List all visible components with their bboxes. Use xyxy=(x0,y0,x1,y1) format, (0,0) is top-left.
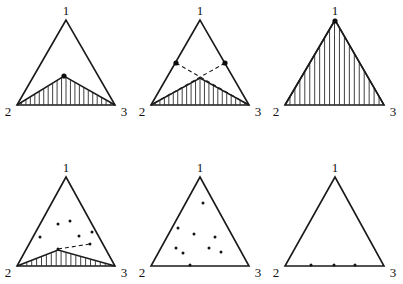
panel-5: 123 xyxy=(139,160,262,280)
data-point xyxy=(222,60,227,65)
data-point xyxy=(89,243,92,246)
data-point xyxy=(220,251,223,254)
panel-2: 123 xyxy=(139,3,262,119)
data-point xyxy=(332,18,337,23)
vertex-label-1: 1 xyxy=(332,160,339,175)
data-point xyxy=(214,236,217,239)
vertex-label-1: 1 xyxy=(197,3,204,18)
hatched-region xyxy=(17,250,115,266)
vertex-label-3: 3 xyxy=(121,104,128,119)
vertex-label-1: 1 xyxy=(332,3,339,18)
vertex-label-2: 2 xyxy=(273,104,280,119)
vertex-label-2: 2 xyxy=(5,104,12,119)
data-point xyxy=(61,73,66,78)
ternary-diagram-figure: 123123123123123123 xyxy=(0,0,403,284)
vertex-label-2: 2 xyxy=(139,104,146,119)
data-point xyxy=(69,220,72,223)
data-point xyxy=(177,227,180,230)
hatched-region xyxy=(285,20,384,105)
data-point xyxy=(310,264,313,267)
data-point xyxy=(78,235,81,238)
dashed-construction-line xyxy=(151,63,225,105)
data-point xyxy=(57,248,60,251)
data-point xyxy=(182,252,185,255)
data-point xyxy=(354,264,357,267)
data-point xyxy=(333,264,336,267)
data-point xyxy=(91,231,94,234)
dashed-construction-line xyxy=(58,244,90,249)
data-point xyxy=(173,60,178,65)
panel-6: 123 xyxy=(273,160,397,280)
data-point xyxy=(175,247,178,250)
vertex-label-3: 3 xyxy=(390,265,397,280)
vertex-label-3: 3 xyxy=(255,265,262,280)
panel-4: 123 xyxy=(5,160,128,280)
data-point xyxy=(208,247,211,250)
data-point xyxy=(57,223,60,226)
figure-canvas: 123123123123123123 xyxy=(0,0,403,284)
data-point xyxy=(193,233,196,236)
vertex-label-3: 3 xyxy=(390,104,397,119)
data-point xyxy=(202,202,205,205)
triangle-outline xyxy=(285,177,384,266)
data-point xyxy=(39,236,42,239)
vertex-label-2: 2 xyxy=(5,265,12,280)
data-point xyxy=(189,264,192,267)
vertex-label-1: 1 xyxy=(63,3,70,18)
vertex-label-3: 3 xyxy=(255,104,262,119)
triangle-outline xyxy=(151,177,249,266)
vertex-label-2: 2 xyxy=(273,265,280,280)
vertex-label-1: 1 xyxy=(197,160,204,175)
vertex-label-1: 1 xyxy=(63,160,70,175)
vertex-label-2: 2 xyxy=(139,265,146,280)
panel-3: 123 xyxy=(273,3,397,119)
panel-1: 123 xyxy=(5,3,128,119)
hatched-region xyxy=(151,78,249,105)
vertex-label-3: 3 xyxy=(121,265,128,280)
